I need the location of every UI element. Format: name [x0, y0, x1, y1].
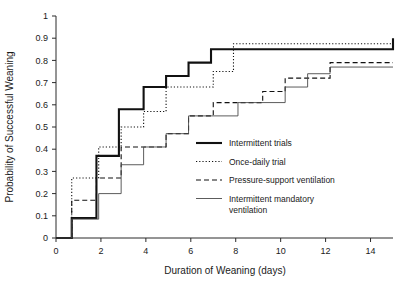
x-tick-label: 8	[233, 246, 238, 256]
legend-label-1: Once-daily trial	[229, 157, 286, 167]
y-axis-title: Probability of Successful Weaning	[4, 51, 15, 202]
x-tick-label: 0	[53, 246, 58, 256]
series-line-2	[56, 63, 393, 238]
y-tick-label: 0	[43, 233, 48, 243]
x-tick-label: 14	[366, 246, 376, 256]
y-tick-label: 1	[43, 11, 48, 21]
x-axis-title: Duration of Weaning (days)	[164, 265, 286, 276]
legend-label-3: Intermittent mandatory	[229, 194, 315, 204]
y-tick-label: 0.5	[35, 122, 48, 132]
chart-figure: 00.10.20.30.40.50.60.70.80.91 0246810121…	[0, 0, 399, 284]
x-tick-label: 10	[276, 246, 286, 256]
legend-label-2: Pressure-support ventilation	[229, 175, 335, 185]
x-axis-ticks: 02468101214	[53, 238, 375, 256]
weaning-survival-chart: 00.10.20.30.40.50.60.70.80.91 0246810121…	[0, 0, 399, 284]
chart-series-group	[56, 38, 393, 238]
y-tick-label: 0.2	[35, 189, 48, 199]
y-tick-label: 0.7	[35, 78, 48, 88]
x-tick-label: 2	[98, 246, 103, 256]
legend-label-0: Intermittent trials	[229, 138, 292, 148]
chart-legend: Intermittent trialsOnce-daily trialPress…	[196, 138, 335, 215]
y-tick-label: 0.9	[35, 33, 48, 43]
x-tick-label: 6	[188, 246, 193, 256]
series-line-3	[56, 67, 393, 238]
y-tick-label: 0.6	[35, 100, 48, 110]
y-tick-label: 0.4	[35, 144, 48, 154]
x-tick-label: 12	[321, 246, 331, 256]
y-tick-label: 0.1	[35, 211, 48, 221]
y-tick-label: 0.3	[35, 167, 48, 177]
x-tick-label: 4	[143, 246, 148, 256]
legend-label-3-line2: ventilation	[229, 205, 268, 215]
series-line-1	[56, 44, 393, 238]
y-axis-ticks: 00.10.20.30.40.50.60.70.80.91	[35, 11, 56, 243]
series-line-0	[56, 38, 393, 238]
y-tick-label: 0.8	[35, 56, 48, 66]
